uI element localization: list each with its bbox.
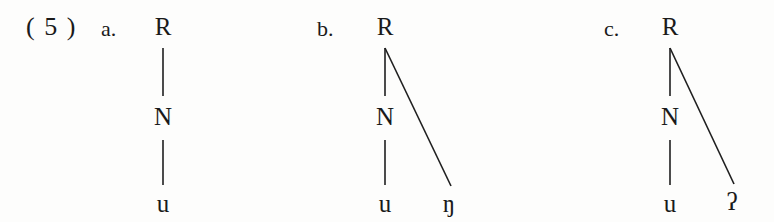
- node-segment-coda-b: ŋ: [436, 191, 462, 216]
- node-segment-nucleus-a: u: [150, 191, 176, 216]
- node-nucleus-b: N: [372, 104, 398, 129]
- node-nucleus-c: N: [657, 104, 683, 129]
- structure-label-b: b.: [317, 16, 334, 42]
- node-nucleus-a: N: [150, 104, 176, 129]
- node-segment-coda-c: ʔ: [719, 189, 745, 214]
- syllable-structure-figure: ( 5 ) a. R N u b. R N u ŋ c. R N u ʔ: [0, 0, 774, 222]
- node-segment-nucleus-c: u: [657, 191, 683, 216]
- example-number: ( 5 ): [26, 12, 77, 42]
- node-root-a: R: [150, 14, 176, 39]
- node-root-c: R: [657, 14, 683, 39]
- node-segment-nucleus-b: u: [372, 191, 398, 216]
- structure-label-a: a.: [101, 16, 116, 42]
- node-root-b: R: [372, 14, 398, 39]
- structure-label-c: c.: [604, 16, 619, 42]
